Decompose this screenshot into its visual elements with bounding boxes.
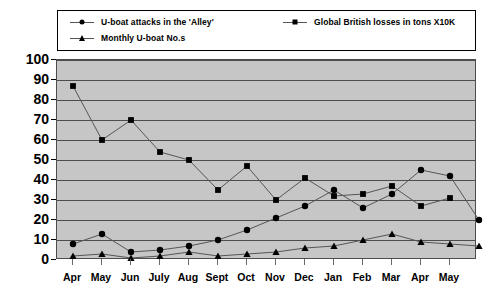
legend-item-british-losses: Global British losses in tons X10K [283,17,455,27]
circle-data-point [157,247,163,253]
square-data-point [244,163,250,169]
x-axis-tick [333,259,334,265]
x-axis-tick [72,259,73,265]
square-data-point [273,197,279,203]
circle-data-point [331,187,337,193]
circle-data-point [128,249,134,255]
square-data-point [389,183,395,189]
square-data-point [418,203,424,209]
circle-data-point [302,203,308,209]
square-data-point [360,191,366,197]
y-axis-label: 40 [33,172,49,186]
square-data-point [128,117,134,123]
series-square [70,83,453,209]
y-axis-label: 70 [33,112,49,126]
circle-data-point [447,173,453,179]
circle-data-point [360,205,366,211]
x-axis-label: May [429,272,469,283]
y-axis-label: 10 [33,232,49,246]
y-axis-label: 60 [33,132,49,146]
y-axis-label: 80 [33,92,49,106]
x-axis-tick [362,259,363,265]
circle-marker-icon [70,18,94,27]
legend-item-monthly-uboats: Monthly U-boat No.s [70,33,185,43]
x-axis-tick [420,259,421,265]
circle-data-point [389,191,395,197]
legend-label-british-losses: Global British losses in tons X10K [314,17,455,27]
square-data-point [215,187,221,193]
y-axis-label: 30 [33,192,49,206]
square-data-point [157,149,163,155]
square-data-point [302,175,308,181]
circle-data-point [244,227,250,233]
square-data-point [186,157,192,163]
x-axis-tick [449,259,450,265]
circle-data-point [215,237,221,243]
x-axis-tick [159,259,160,265]
legend-label-uboat-attacks: U-boat attacks in the 'Alley' [101,17,214,27]
chart-legend: U-boat attacks in the 'Alley' Global Bri… [57,10,476,51]
circle-data-point [99,231,105,237]
y-axis-tick [51,259,56,260]
circle-data-point [418,167,424,173]
square-data-point [70,83,76,89]
y-axis-label: 100 [26,52,49,66]
x-axis-tick [304,259,305,265]
x-axis-tick [101,259,102,265]
square-data-point [99,137,105,143]
square-marker-icon [283,18,307,27]
y-axis-label: 0 [41,252,49,266]
legend-item-uboat-attacks: U-boat attacks in the 'Alley' [70,17,214,27]
square-data-point [331,193,337,199]
x-axis-tick [391,259,392,265]
chart-container: U-boat attacks in the 'Alley' Global Bri… [0,0,487,295]
circle-data-point [70,241,76,247]
y-axis-label: 20 [33,212,49,226]
square-data-point [447,195,453,201]
triangle-data-point [185,249,192,255]
x-axis-tick [188,259,189,265]
circle-data-point [273,215,279,221]
plot-area [56,59,476,259]
circle-data-point [476,217,482,223]
series-triangle [69,231,482,261]
series-line [73,170,479,252]
x-axis-tick [130,259,131,265]
legend-label-monthly-uboats: Monthly U-boat No.s [101,33,185,43]
data-series-layer [57,60,477,260]
y-axis-label: 50 [33,152,49,166]
triangle-marker-icon [70,34,94,43]
y-axis-label: 90 [33,72,49,86]
x-axis-tick [246,259,247,265]
x-axis-tick [275,259,276,265]
triangle-data-point [388,231,395,237]
circle-data-point [186,243,192,249]
x-axis-tick [217,259,218,265]
